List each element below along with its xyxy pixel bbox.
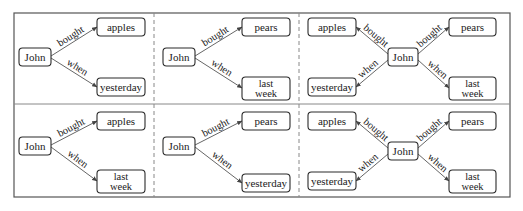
node-label-line: week xyxy=(461,181,484,192)
panel-r2c2: boughtwhenJohnpearsyesterday xyxy=(163,112,290,192)
node-label: yesterday xyxy=(311,81,354,93)
node-yesterday: yesterday xyxy=(308,172,356,190)
node-last-week: lastweek xyxy=(449,77,496,100)
node-John: John xyxy=(388,48,418,66)
node-apples: apples xyxy=(97,112,145,130)
node-label: pears xyxy=(461,21,484,33)
node-label: John xyxy=(393,51,414,63)
node-apples: apples xyxy=(308,112,356,130)
panel-r2c3: boughtwhenboughtwhenapplesyesterdayJohnp… xyxy=(308,112,496,193)
node-label: apples xyxy=(318,115,346,127)
edge-label-bought: bought xyxy=(200,116,231,139)
node-yesterday: yesterday xyxy=(97,78,145,96)
node-yesterday: yesterday xyxy=(242,174,290,192)
node-John: John xyxy=(163,137,195,155)
node-label: yesterday xyxy=(311,175,354,187)
edge-label-bought: bought xyxy=(55,24,86,49)
node-label: John xyxy=(169,140,190,152)
figure-canvas: boughtwhenJohnapplesyesterdayboughtwhenJ… xyxy=(0,0,523,211)
panel-r1c2: boughtwhenJohnpearslastweek xyxy=(163,18,290,100)
node-label: yesterday xyxy=(100,81,143,93)
node-John: John xyxy=(163,48,195,66)
node-pears: pears xyxy=(449,18,496,36)
node-pears: pears xyxy=(449,112,496,130)
node-John: John xyxy=(388,142,418,160)
edge-label-bought: bought xyxy=(56,116,87,139)
edge-label-bought: bought xyxy=(200,24,231,49)
node-label: John xyxy=(25,140,46,152)
node-label-line: week xyxy=(461,88,484,99)
node-label: John xyxy=(25,51,46,63)
panel-r2c1: boughtwhenJohnappleslastweek xyxy=(19,112,145,193)
node-label: apples xyxy=(107,115,135,127)
node-label: John xyxy=(393,145,414,157)
node-last-week: lastweek xyxy=(242,77,290,100)
node-label: apples xyxy=(318,21,346,33)
node-pears: pears xyxy=(242,18,290,36)
panel-r1c3: boughtwhenboughtwhenapplesyesterdayJohnp… xyxy=(308,18,496,100)
node-John: John xyxy=(19,137,51,155)
node-label-line: week xyxy=(255,88,278,99)
node-last-week: lastweek xyxy=(97,170,145,193)
node-label: apples xyxy=(107,21,135,33)
knowledge-graph-figure: boughtwhenJohnapplesyesterdayboughtwhenJ… xyxy=(0,0,523,211)
panel-r1c1: boughtwhenJohnapplesyesterday xyxy=(19,18,145,96)
node-label: pears xyxy=(461,115,484,127)
node-pears: pears xyxy=(242,112,290,130)
node-John: John xyxy=(19,48,51,66)
node-label: John xyxy=(169,51,190,63)
node-apples: apples xyxy=(97,18,145,36)
node-label: yesterday xyxy=(245,177,288,189)
node-label-line: week xyxy=(110,181,133,192)
panels: boughtwhenJohnapplesyesterdayboughtwhenJ… xyxy=(19,18,496,193)
node-last-week: lastweek xyxy=(449,170,496,193)
node-apples: apples xyxy=(308,18,356,36)
node-yesterday: yesterday xyxy=(308,78,356,96)
node-label: pears xyxy=(254,115,277,127)
node-label: pears xyxy=(254,21,277,33)
